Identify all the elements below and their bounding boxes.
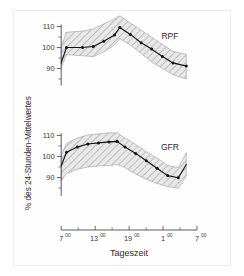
panel-gfr: 110 100 90 GFR [42, 131, 186, 196]
gfr-ylabel-100: 100 [42, 152, 54, 161]
xlabel-1-sup: 00 [65, 233, 71, 238]
xlabel-5-sup: 00 [201, 233, 207, 238]
xlabel-3: 19 [124, 234, 132, 243]
rpf-data-point [172, 61, 175, 64]
x-axis-title: Tageszeit [110, 248, 149, 258]
rpf-data-point [118, 26, 121, 29]
gfr-data-point [86, 143, 89, 146]
rpf-data-point [65, 46, 68, 49]
gfr-data-point [108, 140, 111, 143]
rpf-data-point [92, 45, 95, 48]
xlabel-4: 1 [161, 234, 165, 243]
rpf-data-point [185, 65, 188, 68]
y-axis-title: % des 24-Stunden-Mittelwertes [24, 96, 33, 210]
gfr-data-point [145, 159, 148, 162]
gfr-data-point [76, 146, 79, 149]
series-label-rpf: RPF [161, 31, 178, 41]
xlabel-3-sup: 00 [134, 233, 140, 238]
figure-container: % des 24-Stunden-Mittelwertes 110 100 90 [0, 0, 244, 276]
rpf-data-point [140, 41, 143, 44]
gfr-data-point [124, 146, 127, 149]
gfr-data-point [177, 176, 180, 179]
gfr-data-point [65, 151, 68, 154]
series-label-gfr: GFR [161, 142, 179, 152]
xlabel-4-sup: 00 [167, 233, 173, 238]
chart-svg: % des 24-Stunden-Mittelwertes 110 100 90 [0, 0, 244, 276]
gfr-ylabel-90: 90 [46, 173, 54, 182]
gfr-data-point [134, 152, 137, 155]
xlabel-5: 7 [195, 234, 199, 243]
panel-rpf: 110 100 90 RPF [42, 16, 188, 86]
rpf-ylabel-100: 100 [42, 43, 54, 52]
rpf-data-point [81, 46, 84, 49]
gfr-data-point [156, 167, 159, 170]
xlabel-2: 13 [90, 234, 98, 243]
gfr-data-point [166, 174, 169, 177]
rpf-data-point [150, 48, 153, 51]
gfr-data-point [116, 140, 119, 143]
gfr-data-point [97, 141, 100, 144]
rpf-data-point [102, 40, 105, 43]
rpf-data-point [129, 33, 132, 36]
xlabel-1: 7 [59, 234, 63, 243]
x-axis-group: 7 00 13 00 19 00 1 00 7 00 Tageszeit [59, 226, 207, 258]
rpf-ylabel-90: 90 [46, 64, 54, 73]
gfr-ylabel-110: 110 [43, 131, 55, 140]
rpf-data-point [113, 33, 116, 36]
rpf-data-point [161, 55, 164, 58]
xlabel-2-sup: 00 [100, 233, 106, 238]
rpf-ylabel-110: 110 [43, 22, 55, 31]
